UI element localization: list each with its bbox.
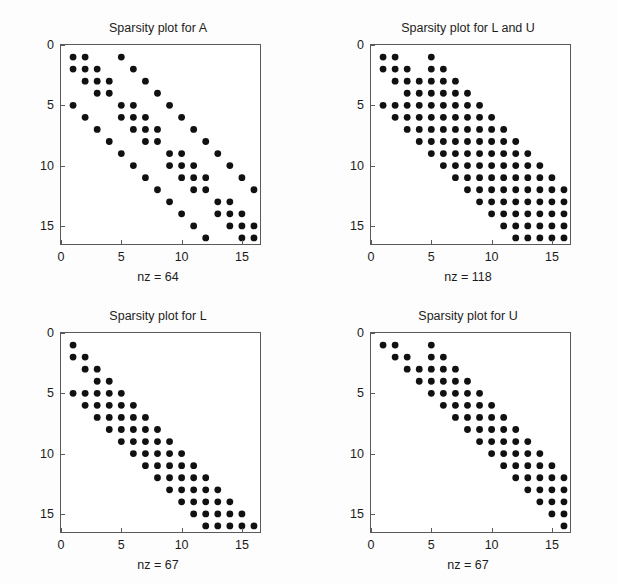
spy-marker (524, 198, 531, 205)
x-tickmark (492, 528, 493, 532)
spy-marker (190, 174, 197, 181)
spy-marker (82, 390, 89, 397)
spy-marker (476, 426, 483, 433)
spy-marker (524, 438, 531, 445)
spy-marker (524, 474, 531, 481)
spy-marker (392, 78, 399, 85)
spy-marker (440, 102, 447, 109)
spy-marker (190, 186, 197, 193)
spy-marker (488, 174, 495, 181)
spy-marker (118, 54, 125, 61)
spy-marker (82, 402, 89, 409)
spy-marker (202, 511, 209, 518)
spy-marker (536, 486, 543, 493)
spy-marker (428, 378, 435, 385)
spy-marker (392, 102, 399, 109)
y-tick-label: 15 (328, 507, 364, 521)
spy-marker (512, 210, 519, 217)
x-tick-label: 0 (368, 250, 375, 264)
spy-marker (452, 126, 459, 133)
spy-marker (488, 114, 495, 121)
x-tickmark (431, 240, 432, 244)
spy-marker (94, 366, 101, 373)
spy-marker (94, 414, 101, 421)
spy-marker (154, 462, 161, 469)
spy-marker (239, 223, 246, 230)
spy-marker (404, 102, 411, 109)
spy-marker (190, 486, 197, 493)
spy-marker (154, 90, 161, 97)
spy-marker (488, 138, 495, 145)
spy-marker (428, 390, 435, 397)
spy-marker (428, 126, 435, 133)
subplot-u-markers (371, 333, 570, 532)
spy-marker (202, 174, 209, 181)
spy-marker (178, 174, 185, 181)
spy-marker (404, 114, 411, 121)
spy-marker (106, 378, 113, 385)
spy-marker (561, 198, 568, 205)
spy-marker (452, 102, 459, 109)
spy-marker (154, 186, 161, 193)
spy-marker (130, 438, 137, 445)
spy-marker (202, 474, 209, 481)
spy-marker (561, 511, 568, 518)
spy-marker (142, 450, 149, 457)
spy-marker (190, 126, 197, 133)
spy-marker (512, 223, 519, 230)
spy-marker (392, 354, 399, 361)
spy-marker (82, 354, 89, 361)
spy-marker (549, 174, 556, 181)
spy-marker (464, 426, 471, 433)
y-tick-label: 5 (328, 98, 364, 112)
spy-marker (70, 54, 77, 61)
spy-marker (82, 78, 89, 85)
spy-marker (500, 414, 507, 421)
spy-marker (428, 114, 435, 121)
spy-marker (452, 414, 459, 421)
subplot-u-axes (370, 332, 571, 533)
spy-marker (130, 114, 137, 121)
spy-marker (190, 474, 197, 481)
spy-marker (428, 90, 435, 97)
spy-marker (70, 102, 77, 109)
y-tick-label: 10 (18, 447, 54, 461)
spy-marker (464, 162, 471, 169)
spy-marker (476, 126, 483, 133)
spy-marker (106, 414, 113, 421)
spy-marker (106, 78, 113, 85)
subplot-a-title: Sparsity plot for A (18, 18, 298, 38)
spy-marker (392, 66, 399, 73)
y-tickmark (61, 105, 65, 106)
spy-marker (190, 462, 197, 469)
spy-marker (536, 235, 543, 242)
spy-marker (130, 162, 137, 169)
subplot-a-markers (61, 45, 260, 244)
spy-marker (239, 511, 246, 518)
spy-marker (178, 462, 185, 469)
subplot-a-nz-label: nz = 64 (18, 270, 298, 284)
spy-marker (536, 162, 543, 169)
y-tickmark (371, 333, 375, 334)
spy-marker (428, 342, 435, 349)
x-tickmark (242, 240, 243, 244)
spy-marker (428, 354, 435, 361)
spy-marker (512, 426, 519, 433)
spy-marker (488, 186, 495, 193)
spy-marker (549, 210, 556, 217)
spy-marker (214, 523, 221, 530)
x-tick-label: 15 (545, 538, 559, 552)
spy-marker (202, 186, 209, 193)
spy-marker (251, 223, 258, 230)
spy-marker (524, 450, 531, 457)
x-tickmark (552, 240, 553, 244)
spy-marker (476, 162, 483, 169)
y-tick-label: 0 (328, 38, 364, 52)
spy-marker (82, 366, 89, 373)
spy-marker (440, 402, 447, 409)
spy-marker (94, 90, 101, 97)
spy-marker (214, 486, 221, 493)
spy-marker (94, 78, 101, 85)
spy-marker (524, 223, 531, 230)
x-tickmark (552, 528, 553, 532)
